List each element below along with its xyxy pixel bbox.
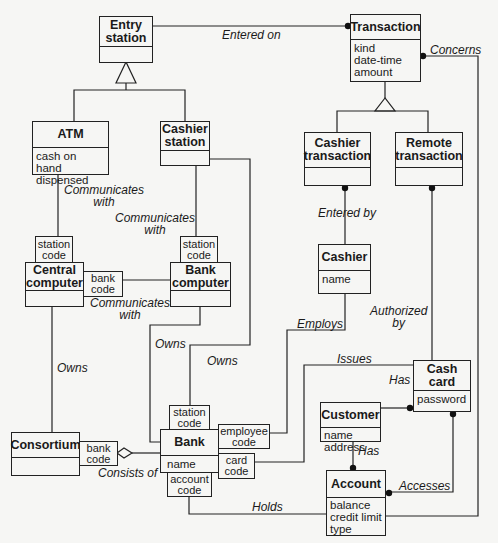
qualifier-central-bank-code: bank code xyxy=(83,271,123,297)
qualifier-consortium-bank-code: bank code xyxy=(79,441,118,466)
class-attributes: name xyxy=(319,271,370,287)
label-owns-central: Owns xyxy=(57,362,88,374)
generalization-triangle-entry xyxy=(116,62,136,83)
label-entered-on: Entered on xyxy=(222,29,281,41)
class-bank-computer: Bank computer xyxy=(170,262,231,307)
qualifier-bank-account-code: account code xyxy=(167,472,212,497)
qualifier-central-station-code: station code xyxy=(35,236,73,263)
class-attributes xyxy=(171,291,230,295)
class-attributes: password xyxy=(414,391,470,407)
qualifier-bankcomputer-station-code: station code xyxy=(180,236,218,263)
class-bank: Bank name xyxy=(160,429,219,473)
label-employs: Employs xyxy=(297,318,343,330)
class-consortium: Consortium xyxy=(11,432,80,476)
label-issues: Issues xyxy=(337,353,372,365)
class-remote-transaction: Remote transaction xyxy=(395,132,463,186)
class-transaction: Transaction kind date-time amount xyxy=(350,14,421,82)
label-holds: Holds xyxy=(252,501,283,513)
label-cashier-communicates-with: Communicates with xyxy=(115,212,195,236)
class-name: Cashier xyxy=(319,245,370,271)
class-customer: Customer name address xyxy=(320,402,381,442)
class-atm: ATM cash on hand dispensed xyxy=(32,121,109,175)
qualifier-bank-station-code: station code xyxy=(169,405,210,430)
class-account: Account balance credit limit type xyxy=(326,470,386,536)
class-name: Bank computer xyxy=(171,263,230,291)
class-name: Account xyxy=(327,471,385,498)
class-name: Bank xyxy=(161,430,218,456)
class-name: Entry station xyxy=(100,17,152,47)
class-cashier: Cashier name xyxy=(318,244,371,294)
aggregation-diamond xyxy=(117,448,132,458)
class-name: ATM xyxy=(33,122,108,148)
qualifier-bank-card-code: card code xyxy=(218,453,255,479)
class-attributes xyxy=(12,458,79,462)
class-cashier-transaction: Cashier transaction xyxy=(304,132,371,186)
class-attributes: cash on hand dispensed xyxy=(33,148,108,188)
label-owns-bank-computer: Owns xyxy=(155,338,186,350)
class-name: Customer xyxy=(321,403,380,428)
class-cash-card: Cash card password xyxy=(413,360,471,412)
class-attributes xyxy=(100,47,152,51)
class-cashier-station: Cashier station xyxy=(160,121,210,166)
label-consists-of: Consists of xyxy=(98,467,157,479)
class-attributes xyxy=(161,151,209,155)
label-atm-communicates-with: Communicates with xyxy=(64,184,144,208)
label-concerns: Concerns xyxy=(430,44,481,56)
class-name: Cashier station xyxy=(161,122,209,151)
class-name: Cashier transaction xyxy=(305,133,370,168)
class-name: Remote transaction xyxy=(396,133,462,168)
class-name: Transaction xyxy=(351,15,420,40)
class-name: Consortium xyxy=(12,433,79,458)
class-attributes xyxy=(305,168,370,172)
class-attributes: name xyxy=(161,456,218,472)
label-has-account: Has xyxy=(358,445,379,457)
class-attributes xyxy=(26,291,83,295)
class-attributes: balance credit limit type xyxy=(327,498,385,537)
class-attributes: kind date-time amount xyxy=(351,40,420,80)
label-authorized-by: Authorized by xyxy=(370,305,427,329)
class-name: Cash card xyxy=(414,361,470,391)
class-central-computer: Central computer xyxy=(25,262,84,307)
label-owns-cashier-station: Owns xyxy=(207,355,238,367)
label-accesses: Accesses xyxy=(399,480,450,492)
class-attributes xyxy=(396,168,462,172)
class-name: Central computer xyxy=(26,263,83,291)
generalization-triangle-transaction xyxy=(375,98,395,111)
label-central-communicates-with: Communicates with xyxy=(90,297,170,321)
class-entry-station: Entry station xyxy=(99,16,153,63)
qualifier-bank-employee-code: employee code xyxy=(218,424,270,449)
label-has-card: Has xyxy=(389,374,410,386)
label-entered-by: Entered by xyxy=(318,207,376,219)
